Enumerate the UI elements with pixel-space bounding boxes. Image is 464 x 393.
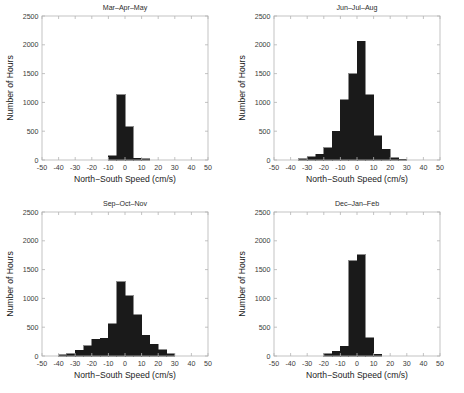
- y-axis-label: Number of Hours: [237, 251, 247, 316]
- histogram-bar: [365, 338, 373, 356]
- y-tick-label: 2500: [23, 209, 39, 217]
- x-tick-label: 30: [403, 360, 411, 368]
- x-tick-label: 50: [204, 164, 212, 172]
- x-tick-label: 0: [355, 360, 359, 368]
- y-tick-label: 2000: [255, 237, 271, 245]
- y-axis-label: Number of Hours: [5, 55, 15, 120]
- y-tick-label: 2500: [23, 13, 39, 21]
- x-tick-label: 40: [187, 164, 195, 172]
- panel-title: Dec–Jan–Feb: [335, 200, 379, 208]
- x-tick-label: -30: [70, 360, 80, 368]
- x-tick-label: 50: [436, 164, 444, 172]
- panel-title: Sep–Oct–Nov: [103, 200, 148, 208]
- x-tick-label: 0: [123, 360, 127, 368]
- histogram-bar: [125, 296, 133, 356]
- x-tick-label: 10: [138, 164, 146, 172]
- x-axis-label: North−South Speed (cm/s): [306, 370, 408, 380]
- histogram-bars: [324, 255, 382, 356]
- histogram-bars: [108, 95, 150, 160]
- x-tick-label: 50: [204, 360, 212, 368]
- histogram-bar: [133, 315, 141, 356]
- x-tick-label: 10: [370, 360, 378, 368]
- histogram-bars: [59, 282, 175, 356]
- x-tick-label: 20: [386, 360, 394, 368]
- x-tick-label: 20: [154, 164, 162, 172]
- y-tick-label: 0: [35, 157, 39, 165]
- x-tick-label: -10: [335, 164, 345, 172]
- x-tick-label: -30: [302, 360, 312, 368]
- x-tick-label: -30: [302, 164, 312, 172]
- histogram-bar: [340, 346, 348, 356]
- histogram-bar: [92, 339, 100, 356]
- y-tick-label: 1500: [23, 70, 39, 78]
- y-tick-label: 1500: [255, 70, 271, 78]
- x-tick-label: -50: [37, 360, 47, 368]
- x-tick-label: -40: [53, 360, 63, 368]
- y-tick-label: 2500: [255, 13, 271, 21]
- x-tick-label: 30: [403, 164, 411, 172]
- y-tick-label: 1500: [23, 266, 39, 274]
- x-tick-label: -10: [335, 360, 345, 368]
- x-tick-label: -20: [319, 360, 329, 368]
- y-axis-label: Number of Hours: [5, 251, 15, 316]
- histogram-bar: [324, 148, 332, 160]
- x-axis-label: North−South Speed (cm/s): [74, 174, 176, 184]
- histogram-bar: [117, 282, 125, 356]
- panel-dec-jan-feb: Dec–Jan–Feb-50-40-30-20-1001020304050050…: [232, 196, 464, 392]
- y-tick-label: 2000: [23, 237, 39, 245]
- histogram-bar: [142, 335, 150, 356]
- x-tick-label: -50: [37, 164, 47, 172]
- histogram-bar: [340, 100, 348, 160]
- histogram-bar: [307, 157, 315, 160]
- histogram-bar: [332, 351, 340, 356]
- x-tick-label: 0: [123, 164, 127, 172]
- y-axis-label: Number of Hours: [237, 55, 247, 120]
- histogram-bar: [158, 350, 166, 356]
- y-tick-label: 0: [267, 353, 271, 361]
- x-tick-label: 30: [171, 164, 179, 172]
- histogram-bar: [382, 149, 390, 160]
- x-axis-label: North−South Speed (cm/s): [74, 370, 176, 380]
- y-tick-label: 1000: [23, 295, 39, 303]
- x-tick-label: 20: [386, 164, 394, 172]
- histogram-bars: [299, 41, 407, 160]
- x-axis-label: North−South Speed (cm/s): [306, 174, 408, 184]
- panel-title: Jun–Jul–Aug: [336, 4, 377, 12]
- y-tick-label: 2000: [255, 41, 271, 49]
- histogram-bar: [374, 136, 382, 160]
- x-tick-label: -40: [285, 360, 295, 368]
- x-tick-label: 20: [154, 360, 162, 368]
- y-tick-label: 0: [35, 353, 39, 361]
- y-tick-label: 500: [27, 128, 39, 136]
- histogram-bar: [108, 156, 116, 160]
- histogram-bar: [125, 127, 133, 160]
- histogram-bar: [365, 95, 373, 160]
- x-tick-label: -40: [285, 164, 295, 172]
- x-tick-label: -50: [269, 360, 279, 368]
- x-tick-label: 0: [355, 164, 359, 172]
- x-tick-label: 40: [419, 164, 427, 172]
- figure-multi-panel-histograms: Mar–Apr–May-50-40-30-20-1001020304050050…: [0, 0, 464, 393]
- x-tick-label: -20: [87, 164, 97, 172]
- panel-title: Mar–Apr–May: [103, 4, 148, 12]
- panel-mar-apr-may: Mar–Apr–May-50-40-30-20-1001020304050050…: [0, 0, 232, 196]
- histogram-bar: [100, 338, 108, 356]
- panel-sep-oct-nov: Sep–Oct–Nov-50-40-30-20-1001020304050050…: [0, 196, 232, 392]
- x-tick-label: 30: [171, 360, 179, 368]
- x-tick-label: -10: [103, 164, 113, 172]
- y-tick-label: 2500: [255, 209, 271, 217]
- y-tick-label: 1500: [255, 266, 271, 274]
- y-tick-label: 0: [267, 157, 271, 165]
- x-tick-label: 40: [187, 360, 195, 368]
- histogram-bar: [108, 324, 116, 356]
- x-tick-label: -10: [103, 360, 113, 368]
- x-tick-label: -20: [87, 360, 97, 368]
- y-tick-label: 1000: [255, 99, 271, 107]
- x-tick-label: 10: [370, 164, 378, 172]
- y-tick-label: 1000: [23, 99, 39, 107]
- panel-jun-jul-aug: Jun–Jul–Aug-50-40-30-20-1001020304050050…: [232, 0, 464, 196]
- y-tick-label: 500: [259, 128, 271, 136]
- y-tick-label: 2000: [23, 41, 39, 49]
- x-tick-label: 10: [138, 360, 146, 368]
- y-tick-label: 1000: [255, 295, 271, 303]
